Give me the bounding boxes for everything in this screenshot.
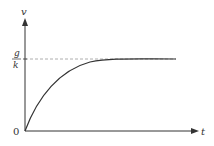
asymptote-denominator: k (13, 60, 18, 70)
y-axis-arrow-icon (22, 18, 28, 26)
y-axis-label: v (21, 6, 27, 17)
x-axis-label: t (201, 126, 206, 137)
asymptote-numerator: g (14, 48, 20, 58)
origin-label: 0 (13, 126, 19, 137)
velocity-curve (25, 59, 176, 131)
x-axis-arrow-icon (191, 128, 199, 134)
velocity-time-graph: v t 0 g k (0, 0, 214, 146)
